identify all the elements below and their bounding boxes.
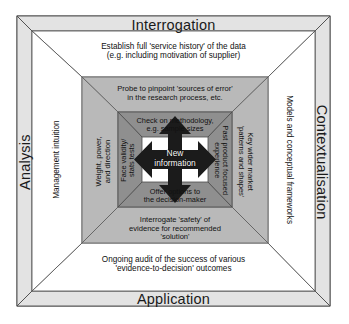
ring-outer-right-text: Models and conceptual frameworks [284,70,293,250]
ring-middle-right-text: Key wider market 'patterns and shapes' [237,107,254,217]
ring-inner-right-text: Past product focused experience [213,120,230,200]
ring-inner-left-text: Face validity/ stats tests [120,120,137,200]
ring-outer-left-text: Management intuition [52,70,61,250]
band-label-top: Interrogation [32,17,315,33]
band-label-bottom: Application [32,291,315,307]
band-label-right: Contextualisation [314,22,330,302]
band-label-left: Analysis [17,22,33,302]
ring-middle-bottom-text: Interrogate 'safety' of evidence for rec… [85,216,265,242]
ring-middle-top-text: Probe to pinpoint 'sources of error' in … [90,85,260,102]
ring-middle-left-text: Weight, power, and direction [95,107,112,217]
center-label: New information [146,149,204,168]
diagram-page: Interrogation Application Analysis Conte… [0,0,349,324]
ring-outer-top-text: Establish full 'service history' of the … [55,42,292,60]
ring-outer-bottom-text: Ongoing audit of the success of various … [55,255,292,273]
